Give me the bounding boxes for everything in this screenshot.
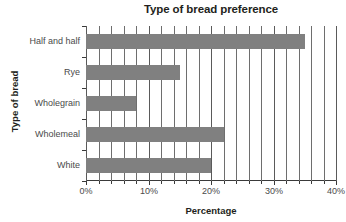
bar-wholemeal <box>86 127 224 142</box>
gridline-minor <box>311 26 312 181</box>
y-axis-tick <box>82 88 86 89</box>
bar-half-and-half <box>86 34 305 49</box>
plot-area <box>86 26 336 181</box>
x-axis-tick <box>161 181 162 184</box>
y-axis-tick <box>82 150 86 151</box>
gridline-minor <box>224 26 225 181</box>
y-axis-tick-label: Wholemeal <box>0 129 80 139</box>
x-axis-tick-label: 40% <box>316 186 346 196</box>
y-axis-tick <box>82 26 86 27</box>
chart-title: Type of bread preference <box>86 3 336 15</box>
x-axis-tick <box>324 181 325 184</box>
x-axis-tick <box>99 181 100 184</box>
x-axis-tick <box>336 181 337 185</box>
x-axis-tick <box>236 181 237 184</box>
gridline-minor <box>286 26 287 181</box>
x-axis-tick <box>274 181 275 185</box>
x-axis-tick <box>261 181 262 184</box>
x-axis-tick <box>174 181 175 184</box>
x-axis-title: Percentage <box>86 205 336 216</box>
gridline-minor <box>299 26 300 181</box>
x-axis-tick <box>224 181 225 184</box>
x-axis-tick-label: 0% <box>66 186 106 196</box>
x-axis-tick <box>311 181 312 184</box>
bar-wholegrain <box>86 96 136 111</box>
y-axis-tick <box>82 119 86 120</box>
x-axis-tick-label: 10% <box>129 186 169 196</box>
gridline-major <box>336 26 337 181</box>
x-axis-tick <box>111 181 112 184</box>
gridline-minor <box>324 26 325 181</box>
x-axis-tick-label: 20% <box>191 186 231 196</box>
y-axis-tick <box>82 181 86 182</box>
x-axis-tick <box>149 181 150 185</box>
x-axis-tick <box>286 181 287 184</box>
gridline-major <box>274 26 275 181</box>
gridline-major <box>211 26 212 181</box>
y-axis-tick-label: Wholegrain <box>0 98 80 108</box>
x-axis-tick <box>211 181 212 185</box>
bar-white <box>86 158 211 173</box>
x-axis-tick <box>249 181 250 184</box>
x-axis-tick-label: 30% <box>254 186 294 196</box>
gridline-minor <box>249 26 250 181</box>
x-axis-tick <box>86 181 87 185</box>
x-axis-tick <box>199 181 200 184</box>
x-axis-tick <box>136 181 137 184</box>
y-axis-tick-label: Half and half <box>0 36 80 46</box>
y-axis-tick-label: White <box>0 160 80 170</box>
x-axis-tick <box>124 181 125 184</box>
y-axis-tick <box>82 57 86 58</box>
gridline-minor <box>261 26 262 181</box>
gridline-minor <box>236 26 237 181</box>
y-axis-tick-label: Rye <box>0 67 80 77</box>
x-axis-tick <box>186 181 187 184</box>
bar-rye <box>86 65 180 80</box>
x-axis-tick <box>299 181 300 184</box>
bar-chart: Type of bread preference Type of bread P… <box>0 0 346 222</box>
